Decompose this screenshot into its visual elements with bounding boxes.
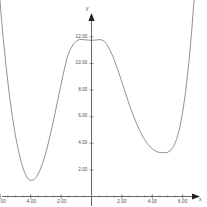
x-tick-label: 6.00: [172, 200, 194, 205]
x-axis-label: x: [199, 197, 202, 202]
plot-area: y x 2.004.006.008.0010.0012.00 -6.00-4.0…: [0, 0, 207, 207]
y-tick-label: 10.00: [65, 61, 88, 66]
y-tick-label: 12.00: [65, 35, 88, 40]
y-tick-label: 4.00: [65, 141, 88, 146]
y-axis-arrow-icon: [88, 13, 94, 21]
data-curve: [0, 0, 198, 181]
chart-canvas: [0, 0, 207, 207]
y-tick-label: 8.00: [65, 88, 88, 93]
x-tick-label: 2.00: [111, 200, 133, 205]
y-tick-label: 2.00: [65, 168, 88, 173]
y-axis-label: y: [86, 6, 89, 11]
x-tick-label: -6.00: [0, 200, 11, 205]
x-tick-label: 4.00: [141, 200, 163, 205]
y-tick-label: 6.00: [65, 114, 88, 119]
x-tick-label: -2.00: [50, 200, 72, 205]
x-tick-label: -4.00: [20, 200, 42, 205]
